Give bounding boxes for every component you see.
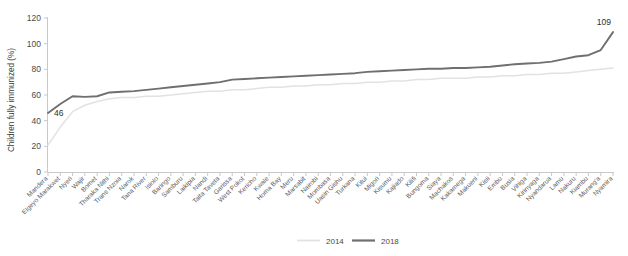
y-tick-label: 60 [32, 90, 42, 100]
legend-label-2014: 2014 [326, 237, 344, 246]
y-tick-label: 0 [36, 167, 41, 177]
y-tick-group [44, 18, 48, 172]
y-axis [44, 17, 48, 172]
legend-label-2018: 2018 [381, 237, 399, 246]
x-tick-labels: ManderaElgeyo MarakwetNyeriWajirBometTha… [20, 174, 614, 216]
data-point-label: 46 [54, 108, 64, 118]
y-tick-labels: 020406080100120 [27, 13, 41, 177]
x-tick-group [48, 173, 613, 177]
y-tick-label: 100 [27, 39, 41, 49]
y-tick-label: 80 [32, 64, 42, 74]
data-point-annotations: 46109 [54, 17, 611, 118]
x-axis [48, 173, 615, 177]
series-line-2014 [48, 68, 613, 145]
y-tick-label: 20 [32, 141, 42, 151]
y-tick-label: 40 [32, 116, 42, 126]
legend: 2014 2018 [297, 237, 399, 246]
y-axis-label: Children fully immunized (%) [7, 48, 16, 152]
data-point-label: 109 [597, 17, 611, 27]
chart-title [180, 0, 480, 9]
immunization-line-chart: Children fully immunized (%) 02040608010… [0, 0, 628, 256]
series-line-2018 [48, 32, 613, 113]
y-tick-label: 120 [27, 13, 41, 23]
chart-canvas: Children fully immunized (%) 02040608010… [0, 0, 628, 256]
